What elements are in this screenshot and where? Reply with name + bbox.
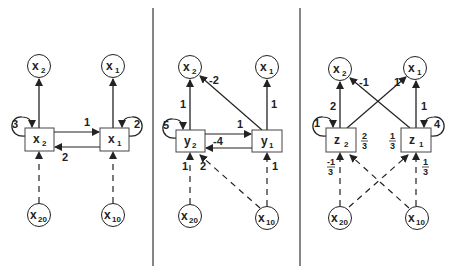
svg-text:1: 1 <box>269 141 274 150</box>
svg-text:10: 10 <box>416 218 425 227</box>
svg-text:2: 2 <box>192 141 197 150</box>
svg-text:2: 2 <box>134 118 140 130</box>
svg-text:20: 20 <box>189 216 198 225</box>
bottom-node-x20: x 20 <box>179 205 202 228</box>
svg-text:1: 1 <box>314 117 320 129</box>
svg-text:10: 10 <box>112 215 121 224</box>
svg-text:x: x <box>104 208 111 222</box>
panel-middle: x 2 x 1 1 1 -2 y 2 y 1 5 1 -4 1 <box>163 56 282 230</box>
svg-text:2: 2 <box>42 139 47 148</box>
svg-text:-2: -2 <box>209 74 219 86</box>
bottom-node-x10: x 10 <box>102 204 125 227</box>
svg-text:x: x <box>258 211 265 225</box>
top-node-x1: x 1 <box>256 56 279 79</box>
svg-text:5: 5 <box>163 119 169 131</box>
top-node-x2: x 2 <box>28 55 51 78</box>
box-x2: x 2 <box>25 128 54 151</box>
svg-text:x: x <box>331 211 338 225</box>
svg-text:x: x <box>33 132 40 146</box>
svg-text:2: 2 <box>330 100 336 112</box>
svg-text:1: 1 <box>182 160 188 172</box>
svg-text:3: 3 <box>362 141 367 151</box>
svg-text:y: y <box>261 134 268 148</box>
box-z1: z 1 <box>401 128 431 152</box>
svg-text:1: 1 <box>272 160 278 172</box>
svg-text:3: 3 <box>423 167 428 177</box>
svg-text:x: x <box>333 62 340 76</box>
bottom-node-x20: x 20 <box>28 204 51 227</box>
box-y1: y 1 <box>252 130 282 152</box>
svg-text:-1: -1 <box>359 76 369 88</box>
svg-text:1: 1 <box>394 76 400 88</box>
bottom-node-x10: x 10 <box>406 207 429 230</box>
svg-text:x: x <box>408 61 415 75</box>
svg-text:4: 4 <box>434 118 441 130</box>
svg-text:x: x <box>30 208 37 222</box>
svg-text:x: x <box>408 211 415 225</box>
bottom-node-x10: x 10 <box>256 207 279 230</box>
svg-text:z: z <box>334 133 340 147</box>
svg-text:2: 2 <box>62 151 68 163</box>
svg-text:1: 1 <box>117 139 122 148</box>
svg-text:20: 20 <box>38 215 47 224</box>
svg-text:1: 1 <box>419 140 424 149</box>
svg-text:-1: -1 <box>327 157 335 167</box>
svg-text:3: 3 <box>12 118 18 130</box>
bottom-node-x20: x 20 <box>329 207 352 230</box>
svg-text:1: 1 <box>421 100 427 112</box>
svg-text:3: 3 <box>328 167 333 177</box>
svg-text:x: x <box>183 60 190 74</box>
svg-text:y: y <box>184 134 191 148</box>
box-z2: z 2 <box>326 128 356 152</box>
svg-text:1: 1 <box>417 68 422 77</box>
top-node-x1: x 1 <box>102 55 125 78</box>
top-node-x2: x 2 <box>179 56 202 79</box>
svg-text:x: x <box>32 59 39 73</box>
svg-text:1: 1 <box>390 131 395 141</box>
svg-text:1: 1 <box>269 67 274 76</box>
svg-text:x: x <box>181 209 188 223</box>
svg-text:1: 1 <box>423 157 428 167</box>
top-node-x1: x 1 <box>404 57 427 80</box>
svg-text:1: 1 <box>271 98 277 110</box>
svg-text:3: 3 <box>390 141 395 151</box>
svg-text:x: x <box>260 60 267 74</box>
svg-text:1: 1 <box>180 98 186 110</box>
panel-left: x 2 x 1 x 2 x 1 3 2 1 2 <box>12 55 142 227</box>
svg-text:x: x <box>106 59 113 73</box>
svg-text:2: 2 <box>362 131 367 141</box>
svg-text:1: 1 <box>115 66 120 75</box>
svg-text:2: 2 <box>200 160 206 172</box>
top-node-x2: x 2 <box>329 58 352 81</box>
svg-text:z: z <box>409 133 415 147</box>
svg-text:10: 10 <box>266 218 275 227</box>
svg-text:20: 20 <box>339 218 348 227</box>
svg-text:2: 2 <box>192 67 197 76</box>
svg-text:1: 1 <box>84 116 90 128</box>
svg-text:2: 2 <box>344 140 349 149</box>
box-y2: y 2 <box>176 130 205 152</box>
svg-text:x: x <box>108 132 115 146</box>
panel-right: x 2 x 1 2 1 -1 1 z 2 z 1 1 4 2 <box>313 57 444 230</box>
svg-text:2: 2 <box>342 69 347 78</box>
svg-text:1: 1 <box>237 118 243 130</box>
box-x1: x 1 <box>100 128 129 151</box>
svg-text:2: 2 <box>41 66 46 75</box>
diagram-canvas: x 2 x 1 x 2 x 1 3 2 1 2 <box>0 0 455 277</box>
svg-text:-4: -4 <box>213 135 224 147</box>
